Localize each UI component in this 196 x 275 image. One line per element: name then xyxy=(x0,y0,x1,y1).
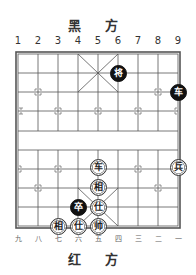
piece-red-advisor[interactable]: 仕 xyxy=(90,199,107,216)
column-label-san: 三 xyxy=(130,233,146,243)
piece-black-general[interactable]: 将 xyxy=(110,65,127,82)
column-label-ba: 八 xyxy=(30,233,46,243)
column-label-jiu: 九 xyxy=(10,233,26,243)
column-label-si: 四 xyxy=(110,233,126,243)
piece-black-soldier[interactable]: 卒 xyxy=(70,199,87,216)
piece-red-elephant[interactable]: 相 xyxy=(90,179,107,196)
piece-red-elephant-2[interactable]: 相 xyxy=(50,218,67,235)
piece-red-soldier[interactable]: 兵 xyxy=(170,159,187,176)
red-side-title: 红 方 xyxy=(0,249,196,268)
column-label-liu: 六 xyxy=(70,233,86,243)
column-label-qi: 七 xyxy=(50,233,66,243)
piece-red-advisor-2[interactable]: 仕 xyxy=(70,218,87,235)
column-label-wu: 五 xyxy=(90,233,106,243)
piece-red-king[interactable]: 帅 xyxy=(90,218,107,235)
piece-red-chariot[interactable]: 车 xyxy=(90,159,107,176)
column-label-er: 二 xyxy=(150,233,166,243)
column-label-yi: 一 xyxy=(170,233,186,243)
piece-black-chariot[interactable]: 车 xyxy=(170,84,187,101)
